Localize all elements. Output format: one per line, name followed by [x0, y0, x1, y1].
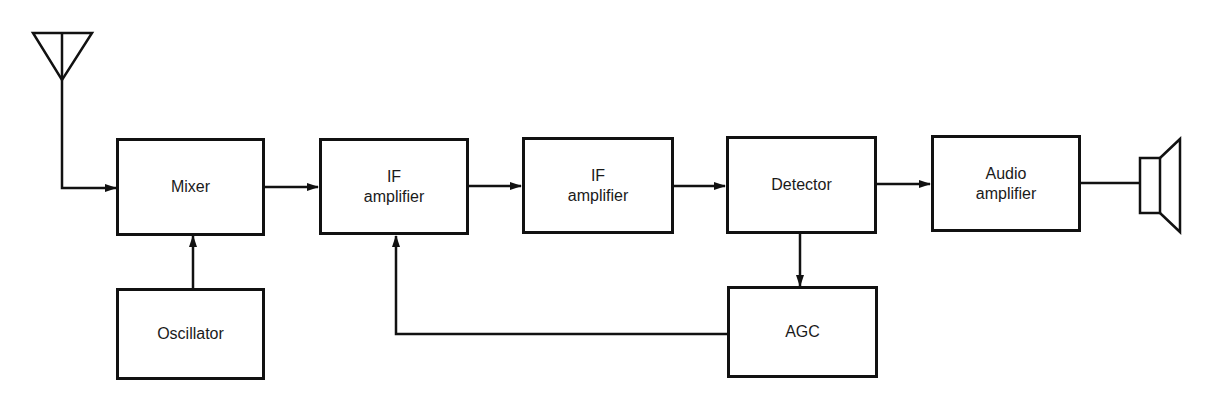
antenna-to-mixer-line — [62, 80, 116, 188]
mixer-label: Mixer — [171, 177, 210, 197]
oscillator-block: Oscillator — [116, 288, 265, 380]
detector-block: Detector — [726, 136, 877, 234]
speaker-icon — [1140, 139, 1180, 232]
audio-amplifier-label-line2: amplifier — [976, 184, 1036, 204]
if-amplifier-2-block: IF amplifier — [522, 137, 674, 234]
oscillator-label: Oscillator — [157, 324, 224, 344]
mixer-block: Mixer — [116, 138, 265, 236]
audio-amplifier-block: Audio amplifier — [931, 135, 1081, 232]
if-amplifier-2-label-line2: amplifier — [568, 186, 628, 206]
audio-amplifier-label-line1: Audio — [986, 164, 1027, 184]
agc-to-if1-feedback-line — [396, 236, 727, 334]
agc-label: AGC — [785, 322, 820, 342]
if-amplifier-1-label-line1: IF — [387, 167, 401, 187]
if-amplifier-2-label-line1: IF — [591, 166, 605, 186]
agc-block: AGC — [727, 286, 878, 378]
if-amplifier-1-block: IF amplifier — [319, 138, 469, 235]
detector-label: Detector — [771, 175, 831, 195]
if-amplifier-1-label-line2: amplifier — [364, 187, 424, 207]
antenna-icon — [33, 33, 92, 80]
block-diagram: Mixer IF amplifier IF amplifier Detector… — [0, 0, 1207, 400]
